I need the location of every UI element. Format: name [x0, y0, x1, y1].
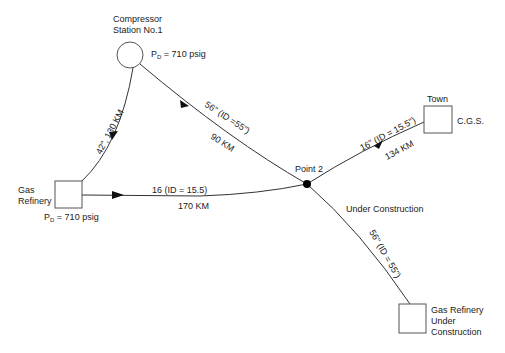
refinery-pressure: PD = 710 psig	[44, 212, 99, 223]
pipe-label-town-length: 134 KM	[383, 138, 415, 161]
compressor-pressure: PD = 710 psig	[151, 49, 206, 60]
pipe-label-compressor-length: 90 KM	[209, 131, 236, 154]
refinery-uc-node[interactable]	[399, 304, 426, 333]
arrow-icon	[180, 100, 189, 108]
pipe-label-refinery-uc-size: 56" (ID = 55")	[367, 228, 403, 280]
point2-label: Point 2	[295, 164, 323, 174]
town-node[interactable]	[424, 106, 452, 133]
gas-refinery-node[interactable]	[55, 181, 82, 208]
town-title: Town	[427, 94, 448, 104]
pipe-point2-to-town	[307, 122, 424, 184]
refinery-uc-line1: Gas Refinery	[431, 305, 484, 315]
refinery-title-line2: Refinery	[18, 196, 52, 206]
compressor-station-node[interactable]	[117, 42, 143, 68]
arrow-icon	[112, 191, 124, 199]
compressor-title-line1: Compressor	[113, 14, 162, 24]
pipe-point2-to-refinery-uc	[307, 184, 410, 304]
pipe-label-refinery-compressor: 42", 130 KM	[94, 108, 126, 156]
refinery-uc-line2: Under	[431, 316, 456, 326]
pipe-compressor-to-point2	[140, 64, 307, 184]
pipe-label-refinery-point2-size: 16 (ID = 15.5)	[152, 185, 207, 195]
point2-junction-dot[interactable]	[303, 180, 311, 188]
pipe-label-compressor-size: 56" (ID =55")	[203, 99, 252, 136]
town-cgs-label: C.G.S.	[457, 116, 484, 126]
compressor-title-line2: Station No.1	[113, 25, 163, 35]
pipeline-diagram: Compressor Station No.1 PD = 710 psig Ga…	[0, 0, 505, 353]
pipe-label-under-construction: Under Construction	[346, 204, 424, 214]
refinery-uc-line3: Construction	[431, 327, 482, 337]
refinery-title-line1: Gas	[18, 185, 35, 195]
pipe-label-refinery-point2-length: 170 KM	[178, 201, 209, 211]
